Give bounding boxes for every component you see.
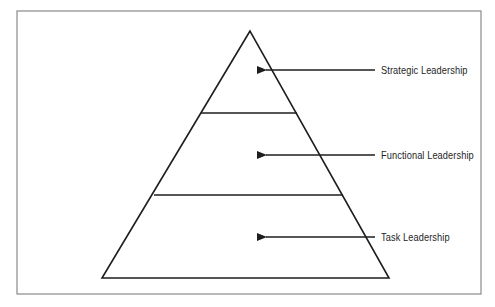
label-task-leadership: Task Leadership — [381, 231, 450, 243]
label-strategic-leadership: Strategic Leadership — [381, 64, 468, 76]
label-functional-leadership: Functional Leadership — [381, 149, 474, 161]
